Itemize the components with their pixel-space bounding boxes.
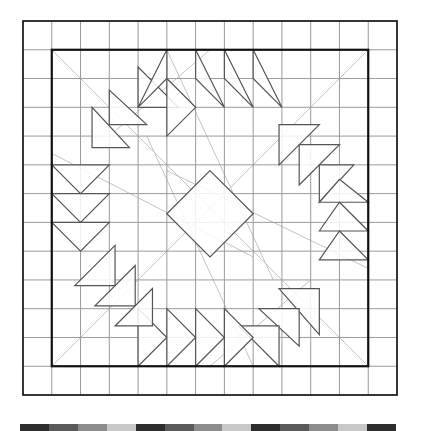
color-swatch xyxy=(338,424,367,431)
flying-goose-triangle xyxy=(52,165,110,194)
center-diamond xyxy=(167,171,253,257)
color-swatch xyxy=(280,424,309,431)
flying-goose-triangle xyxy=(319,231,368,260)
flying-goose-triangle xyxy=(167,79,196,137)
flying-goose-triangle xyxy=(167,309,196,367)
color-swatch xyxy=(309,424,338,431)
color-swatch-strip xyxy=(20,424,396,431)
color-swatch xyxy=(194,424,223,431)
flying-goose-triangle xyxy=(319,202,368,231)
color-swatch xyxy=(222,424,251,431)
color-swatch xyxy=(20,424,49,431)
color-swatch xyxy=(107,424,136,431)
color-swatch xyxy=(367,424,396,431)
flying-goose-triangle xyxy=(52,194,110,223)
color-swatch xyxy=(49,424,78,431)
quilt-pattern-diagram xyxy=(0,0,421,431)
color-swatch xyxy=(78,424,107,431)
color-swatch xyxy=(251,424,280,431)
color-swatch xyxy=(136,424,165,431)
flying-goose-triangle xyxy=(52,222,110,251)
color-swatch xyxy=(165,424,194,431)
